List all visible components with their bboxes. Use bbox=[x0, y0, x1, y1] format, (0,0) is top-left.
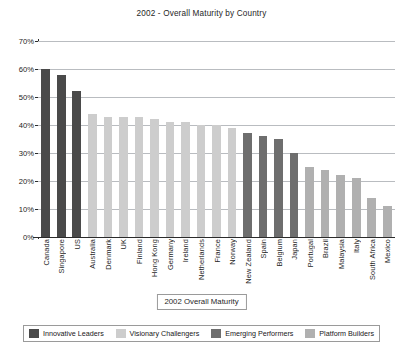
y-axis-tick-label: 60% bbox=[19, 65, 34, 74]
bar-fill bbox=[166, 122, 175, 237]
bar-fill bbox=[274, 139, 283, 237]
legend-swatch bbox=[211, 329, 221, 338]
y-axis-tick-label: 50% bbox=[19, 93, 34, 102]
x-axis-category-label: Spain bbox=[259, 239, 268, 258]
bar-fill bbox=[135, 117, 144, 237]
bar[interactable] bbox=[367, 198, 376, 237]
x-axis-category-label: New Zealand bbox=[244, 239, 253, 284]
bar[interactable] bbox=[150, 119, 159, 237]
x-axis-category-label: Hong Kong bbox=[150, 239, 159, 277]
chart-title: 2002 - Overall Maturity by Country bbox=[0, 9, 403, 18]
bar[interactable] bbox=[290, 153, 299, 237]
x-axis-category-label: Ireland bbox=[181, 239, 190, 262]
bar[interactable] bbox=[305, 167, 314, 237]
bar[interactable] bbox=[259, 136, 268, 237]
legend-swatch bbox=[29, 329, 39, 338]
legend-label: Emerging Performers bbox=[225, 329, 293, 338]
bar-fill bbox=[119, 117, 128, 237]
legend-item[interactable]: Visionary Challengers bbox=[116, 329, 200, 338]
y-axis-tick-label: 40% bbox=[19, 121, 34, 130]
bar-fill bbox=[383, 206, 392, 237]
x-axis-category-labels: CanadaSingaporeUSAustraliaDenmarkUKFinla… bbox=[38, 239, 395, 291]
bar[interactable] bbox=[104, 117, 113, 237]
bar[interactable] bbox=[352, 178, 361, 237]
bar-fill bbox=[290, 153, 299, 237]
bar-fill bbox=[41, 69, 50, 237]
bar-fill bbox=[336, 175, 345, 237]
x-axis-category-label: UK bbox=[119, 239, 128, 249]
x-axis-title: 2002 Overall Maturity bbox=[156, 294, 246, 310]
bar[interactable] bbox=[41, 69, 50, 237]
y-axis-tick-label: 30% bbox=[19, 149, 34, 158]
bar[interactable] bbox=[119, 117, 128, 237]
x-axis-category-label: Denmark bbox=[104, 239, 113, 270]
chart-container: 2002 - Overall Maturity by Country 70%60… bbox=[0, 0, 403, 347]
bar[interactable] bbox=[228, 128, 237, 237]
plot-area bbox=[38, 41, 395, 237]
bar[interactable] bbox=[135, 117, 144, 237]
bar[interactable] bbox=[321, 170, 330, 237]
y-axis-tick-labels: 70%60%50%40%30%20%10%0% bbox=[0, 0, 34, 347]
legend-item[interactable]: Emerging Performers bbox=[211, 329, 293, 338]
bar[interactable] bbox=[336, 175, 345, 237]
x-axis-category-label: Portugal bbox=[306, 239, 315, 267]
x-axis-category-label: Australia bbox=[88, 239, 97, 269]
bar-fill bbox=[305, 167, 314, 237]
legend-label: Innovative Leaders bbox=[43, 329, 104, 338]
bar-fill bbox=[367, 198, 376, 237]
x-axis-category-label: US bbox=[73, 239, 82, 249]
x-axis-category-label: Brazil bbox=[321, 239, 330, 258]
bar-fill bbox=[150, 119, 159, 237]
legend-label: Platform Builders bbox=[319, 329, 374, 338]
legend-label: Visionary Challengers bbox=[130, 329, 200, 338]
bar-fill bbox=[212, 125, 221, 237]
x-axis-category-label: Malaysia bbox=[337, 239, 346, 269]
bar-series bbox=[38, 41, 395, 237]
bar[interactable] bbox=[57, 75, 66, 237]
bar[interactable] bbox=[181, 122, 190, 237]
legend-item[interactable]: Innovative Leaders bbox=[29, 329, 104, 338]
legend-item[interactable]: Platform Builders bbox=[305, 329, 374, 338]
y-axis-tick-label: 70% bbox=[19, 37, 34, 46]
bar[interactable] bbox=[274, 139, 283, 237]
legend-swatch bbox=[116, 329, 126, 338]
bar[interactable] bbox=[197, 125, 206, 237]
x-axis-category-label: Norway bbox=[228, 239, 237, 265]
bar-fill bbox=[57, 75, 66, 237]
bar-fill bbox=[88, 114, 97, 237]
x-axis-category-label: Netherlands bbox=[197, 239, 206, 280]
bar[interactable] bbox=[88, 114, 97, 237]
x-axis-category-label: Canada bbox=[42, 239, 51, 266]
x-axis-category-label: Germany bbox=[166, 239, 175, 270]
bar-fill bbox=[259, 136, 268, 237]
x-axis-category-label: Singapore bbox=[57, 239, 66, 274]
bar-fill bbox=[197, 125, 206, 237]
bar[interactable] bbox=[243, 133, 252, 237]
bar[interactable] bbox=[166, 122, 175, 237]
x-axis-category-label: France bbox=[213, 239, 222, 263]
bar[interactable] bbox=[72, 91, 81, 237]
bar-fill bbox=[321, 170, 330, 237]
x-axis-category-label: Belgium bbox=[275, 239, 284, 266]
bar-fill bbox=[228, 128, 237, 237]
bar-fill bbox=[243, 133, 252, 237]
chart-legend: Innovative LeadersVisionary ChallengersE… bbox=[23, 325, 380, 342]
bar[interactable] bbox=[383, 206, 392, 237]
bar-fill bbox=[72, 91, 81, 237]
legend-swatch bbox=[305, 329, 315, 338]
x-axis-category-label: South Africa bbox=[368, 239, 377, 280]
y-axis-tick-label: 10% bbox=[19, 205, 34, 214]
x-axis-category-label: Italy bbox=[352, 239, 361, 253]
bar-fill bbox=[352, 178, 361, 237]
y-axis-tick-label: 20% bbox=[19, 177, 34, 186]
bar-fill bbox=[104, 117, 113, 237]
bar-fill bbox=[181, 122, 190, 237]
x-axis-category-label: Japan bbox=[290, 239, 299, 260]
x-axis-category-label: Finland bbox=[135, 239, 144, 264]
x-axis-category-label: Mexico bbox=[383, 239, 392, 263]
bar[interactable] bbox=[212, 125, 221, 237]
